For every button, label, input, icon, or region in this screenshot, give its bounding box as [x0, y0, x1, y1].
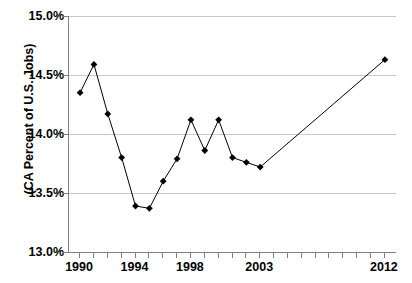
- x-tick-label-1994: 1994: [121, 260, 149, 274]
- data-series-svg: [69, 16, 396, 252]
- x-tick-label-2012: 2012: [370, 260, 398, 274]
- x-tick-mark: [315, 253, 316, 258]
- x-tick-mark: [259, 253, 260, 258]
- data-point: [229, 154, 236, 161]
- x-tick-mark: [107, 253, 108, 258]
- data-point: [215, 116, 222, 123]
- x-tick-mark: [301, 253, 302, 258]
- x-tick-mark: [121, 253, 122, 258]
- x-tick-mark: [370, 253, 371, 258]
- y-tick-label-13-5: 13.5%: [4, 186, 64, 200]
- x-tick-mark: [190, 253, 191, 258]
- x-tick-label-1998: 1998: [176, 260, 204, 274]
- line-chart: Professional and Business Services (CA P…: [0, 0, 412, 283]
- series-markers: [77, 56, 389, 211]
- y-tick-label-14-5: 14.5%: [4, 68, 64, 82]
- data-point: [132, 203, 139, 210]
- x-tick-mark: [93, 253, 94, 258]
- x-tick-mark: [384, 253, 385, 258]
- x-tick-mark: [148, 253, 149, 258]
- x-tick-mark: [287, 253, 288, 258]
- x-tick-mark: [79, 253, 80, 258]
- x-tick-mark: [204, 253, 205, 258]
- x-tick-label-2003: 2003: [245, 260, 273, 274]
- data-point: [160, 178, 167, 185]
- plot-area: [68, 16, 396, 253]
- data-point: [146, 205, 153, 212]
- data-point: [174, 155, 181, 162]
- x-tick-mark: [232, 253, 233, 258]
- y-tick-label-13-0: 13.0%: [4, 245, 64, 259]
- data-point: [118, 154, 125, 161]
- x-tick-mark: [245, 253, 246, 258]
- data-point: [188, 116, 195, 123]
- x-tick-mark: [176, 253, 177, 258]
- data-point: [91, 61, 98, 68]
- data-point: [104, 111, 111, 118]
- x-tick-label-1990: 1990: [65, 260, 93, 274]
- series-line: [80, 60, 385, 209]
- y-axis-tick-labels: 15.0% 14.5% 14.0% 13.5% 13.0%: [0, 0, 64, 283]
- x-tick-mark: [356, 253, 357, 258]
- y-tick-label-14-0: 14.0%: [4, 127, 64, 141]
- x-tick-mark: [135, 253, 136, 258]
- data-point: [201, 147, 208, 154]
- x-tick-mark: [328, 253, 329, 258]
- x-tick-mark: [218, 253, 219, 258]
- x-tick-mark: [273, 253, 274, 258]
- x-tick-mark: [342, 253, 343, 258]
- x-tick-mark: [162, 253, 163, 258]
- data-point: [243, 159, 250, 166]
- y-tick-label-15-0: 15.0%: [4, 9, 64, 23]
- data-point: [77, 89, 84, 96]
